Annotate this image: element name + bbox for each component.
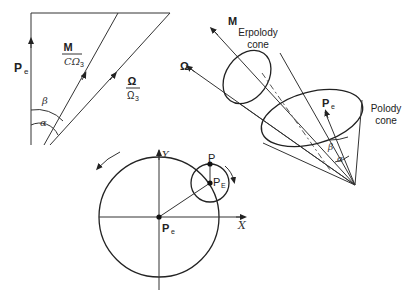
m-label: M — [228, 15, 237, 27]
polody-cone-edge-right — [355, 100, 362, 185]
vector-triangle-diagram: P e M CΩ 3 Ω Ω 3 β α — [14, 13, 170, 145]
beta-label: β — [41, 95, 48, 106]
polody-ellipse — [255, 79, 369, 156]
polody-label-line1: Polody — [371, 103, 402, 114]
omega-arrow-icon — [188, 67, 195, 72]
erpolody-cone-axis — [262, 73, 330, 170]
alpha-label: α — [337, 154, 343, 164]
alpha-label: α — [40, 117, 47, 128]
omega-fraction-numerator: Ω — [128, 75, 137, 87]
m-fraction-den-sub: 3 — [80, 61, 84, 68]
m-vector-line — [44, 13, 118, 145]
erpolody-label-line1: Erpolody — [238, 27, 277, 38]
pe-center-label: P — [162, 222, 169, 234]
pE-sub: E — [221, 182, 226, 189]
erpolody-ellipse — [213, 41, 281, 113]
pe-label: P — [14, 61, 22, 75]
omega-arrow-icon — [110, 74, 115, 80]
m-fraction-numerator: M — [63, 41, 72, 53]
x-axis-label: X — [237, 219, 247, 232]
omega-vector-line — [50, 13, 170, 145]
pE-dot — [207, 180, 212, 185]
erpolody-cone-edge-bottom — [240, 104, 355, 185]
pe-sub: e — [24, 67, 29, 76]
m-arrow-icon — [212, 29, 218, 35]
m-fraction-denominator: CΩ — [64, 56, 80, 67]
omega-label: Ω — [180, 60, 189, 72]
pe-sub: e — [331, 103, 335, 110]
omega-fraction-den-sub: 3 — [135, 95, 139, 102]
erpolody-label-line2: cone — [247, 39, 269, 50]
pe-center-dot — [156, 214, 161, 219]
circle-diagram: Y X P P e P E — [98, 149, 247, 290]
omega-fraction-denominator: Ω — [127, 90, 135, 101]
erpolody-cone-edge-top — [280, 53, 355, 185]
pE-label: P — [213, 176, 220, 188]
diagram-canvas: P e M CΩ 3 Ω Ω 3 β α M Ω — [0, 0, 418, 292]
pe-label: P — [322, 97, 329, 109]
large-rotation-arrow-icon — [98, 152, 120, 168]
p-label: P — [208, 152, 215, 164]
pe-center-sub: e — [171, 228, 175, 235]
beta-label: β — [327, 142, 333, 152]
polody-cone-edge-left — [263, 143, 355, 185]
polody-label-line2: cone — [375, 115, 397, 126]
